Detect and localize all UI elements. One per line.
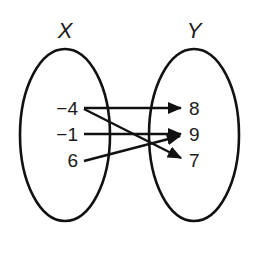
arrow-6-to-9 xyxy=(84,136,180,161)
range-value: 7 xyxy=(189,150,200,171)
domain-value: 6 xyxy=(67,150,78,171)
mapping-diagram: X Y −4 −1 6 8 9 7 xyxy=(0,0,260,261)
range-set-label: Y xyxy=(187,18,203,43)
domain-set-label: X xyxy=(57,18,74,43)
domain-value: −1 xyxy=(56,124,78,145)
range-value: 8 xyxy=(189,98,200,119)
domain-value: −4 xyxy=(56,98,78,119)
range-value: 9 xyxy=(189,124,200,145)
